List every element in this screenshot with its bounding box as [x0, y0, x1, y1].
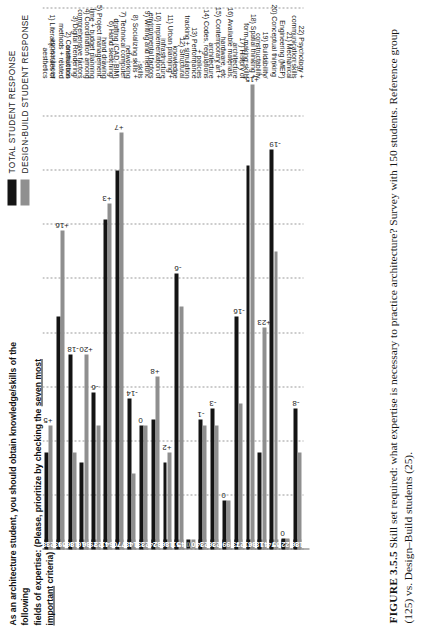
bar-delta-label: +2	[162, 442, 171, 450]
bar-row: 7186+15	[244, 8, 256, 549]
bar-total	[257, 452, 261, 549]
bar-total	[174, 273, 178, 549]
bar-design-build	[131, 473, 135, 549]
bar-delta-label: 0	[186, 539, 190, 547]
bar-delta-label: 0	[138, 415, 142, 423]
question-line-1: As an architecture student, you should o…	[7, 341, 29, 625]
bar-design-build	[202, 425, 206, 549]
figure-caption: FIGURE 3.5.5 Skill set required: what ex…	[381, 0, 439, 629]
bar-value-design-build: 64	[107, 539, 111, 548]
bar-row: 23230	[137, 8, 149, 549]
bar-row: 6164+3	[101, 8, 113, 549]
bar-design-build	[96, 425, 100, 549]
bar-total	[246, 165, 250, 549]
bar-value-design-build: 18	[297, 539, 301, 548]
bar-value-total: 9	[222, 539, 226, 548]
bar-delta-label: -8	[292, 399, 299, 407]
rotated-figure-canvas: As an architecture student, you should o…	[0, 0, 439, 629]
bar-value-design-build: 86	[250, 539, 254, 548]
bar-row: 7077+7	[113, 8, 125, 549]
bar-row: 2432+8	[149, 8, 161, 549]
bar-value-design-build: 0	[191, 539, 195, 548]
legend-label-design-build: DESIGN-BUILD STUDENT RESPONSE	[19, 14, 29, 173]
bar-design-build	[262, 327, 266, 549]
bar-row: 990	[220, 8, 232, 549]
category-labels: 1) Literacy in rules of aesthetics2) Con…	[42, 0, 303, 78]
bar-total	[44, 452, 48, 549]
bar-row: 1841+23	[256, 8, 268, 549]
bar-total	[139, 425, 143, 549]
bar-total	[115, 170, 119, 549]
bar-row: 1636+20	[78, 8, 90, 549]
category-label: 21) Mechanical Engineering (MEP)	[280, 4, 291, 78]
bar-design-build	[297, 452, 301, 549]
bar-total	[79, 462, 83, 549]
bar-value-design-build: 27	[238, 539, 242, 548]
category-label-text: 20) Conceptual thinking	[270, 4, 278, 76]
category-label: 8) Socializing skills + networking	[126, 4, 137, 78]
bar-row: 1823+5	[42, 8, 54, 549]
bar-delta-label: -19	[269, 139, 280, 147]
bar-row: 2923-6	[89, 8, 101, 549]
category-label: 7) Technical computer drafting (CAD, BIM…	[114, 4, 125, 78]
bar-value-design-build: 18	[72, 539, 76, 548]
bar-design-build	[250, 84, 254, 549]
bar-row: 4359+16	[54, 8, 66, 549]
bar-value-design-build: 45	[179, 539, 183, 548]
bar-design-build	[60, 230, 64, 549]
bar-row: 2623-3	[208, 8, 220, 549]
category-label-text: 19) Buildability/ constructability	[254, 4, 269, 78]
bar-value-design-build: 55	[274, 539, 278, 548]
legend-swatch-total	[7, 179, 16, 205]
category-label-text: 22) Psychology + communication skills	[289, 4, 304, 78]
bar-row: 2814-14	[125, 8, 137, 549]
bar-design-build	[143, 425, 147, 549]
bar-value-design-build: 23	[143, 539, 147, 548]
category-label: 16) Available materials, hardware, etc	[221, 4, 232, 78]
bar-value-design-build: 23	[48, 539, 52, 548]
bar-total	[151, 419, 155, 549]
bar-value-design-build: 23	[214, 539, 218, 548]
bar-value-design-build: 18	[167, 539, 171, 548]
bar-row: 7455-19	[267, 8, 279, 549]
bar-total	[56, 316, 60, 549]
bar-rows: 1823+54359+163618-181636+202923-66164+37…	[42, 8, 303, 549]
bar-design-build	[48, 425, 52, 549]
bar-delta-label: -1	[197, 409, 204, 417]
question-line-2a: fields of expertise: (Please, prioritize…	[32, 406, 42, 625]
category-label: 14) Codes, regulations + policies	[197, 4, 208, 78]
question-line-2b: criteria)	[44, 551, 54, 585]
bar-row: 4327-16	[232, 8, 244, 549]
bar-value-design-build: 2	[285, 539, 289, 548]
bar-design-build	[179, 306, 183, 549]
bar-value-design-build: 14	[131, 539, 135, 548]
bar-row: 000	[184, 8, 196, 549]
bar-delta-label: -18	[67, 344, 78, 352]
bar-value-design-build: 9	[226, 539, 230, 548]
bar-value-design-build: 59	[60, 539, 64, 548]
bar-delta-label: +5	[43, 415, 52, 423]
figure-caption-text: Skill set required: what expertise is ne…	[386, 28, 413, 623]
bar-value-design-build: 77	[119, 539, 123, 548]
bar-delta-label: -3	[209, 399, 216, 407]
bar-row: 3618-18	[66, 8, 78, 549]
bar-row: 2423-1	[196, 8, 208, 549]
figure-caption-label: FIGURE 3.5.5	[386, 551, 398, 623]
category-label: 6) Hand sketching/ hand drawing	[102, 4, 113, 78]
bar-total	[269, 149, 273, 549]
bar-design-build	[214, 425, 218, 549]
bar-total	[68, 354, 72, 549]
bar-value-design-build: 23	[202, 539, 206, 548]
bar-total	[127, 398, 131, 549]
category-label: 15) Contemporary art + architecture	[209, 4, 220, 78]
bar-value-design-build: 32	[155, 539, 159, 548]
bar-total	[210, 408, 214, 549]
bar-design-build	[238, 403, 242, 549]
bar-delta-label: -6	[174, 263, 181, 271]
bar-total	[91, 392, 95, 549]
bar-row: 5145-6	[173, 8, 185, 549]
category-label: 22) Psychology + communication skills	[292, 4, 303, 78]
legend-swatch-design-build	[20, 179, 29, 205]
bar-total	[103, 219, 107, 549]
bar-delta-label: 0	[221, 491, 225, 499]
